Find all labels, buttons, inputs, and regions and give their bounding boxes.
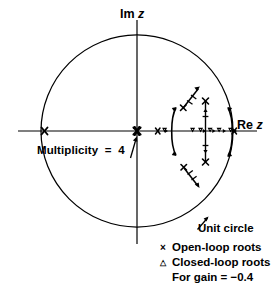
real-axis-label: Re z [237, 119, 263, 132]
legend-label-closed-loop-roots: Closed-loop roots [172, 255, 270, 270]
x-marker-icon: × [160, 240, 172, 255]
imaginary-axis-label: Im z [120, 8, 144, 21]
legend-item-open-loop-roots: × Open-loop roots [160, 240, 278, 255]
real-axis-label-variable: z [256, 118, 262, 132]
triangle-marker-icon: △ [160, 255, 172, 270]
legend-gain-value: For gain = −0.4 [160, 270, 278, 285]
real-axis-label-prefix: Re [237, 118, 256, 132]
legend-label-open-loop-roots: Open-loop roots [172, 240, 261, 255]
lower-diagonal-branch [181, 165, 200, 189]
legend-item-closed-loop-roots: △ Closed-loop roots [160, 255, 278, 270]
upper-diagonal-branch [181, 87, 201, 111]
unit-circle-annotation: Unit circle [198, 222, 254, 234]
imaginary-axis-label-prefix: Im [120, 7, 138, 21]
multiplicity-leader-arrow [131, 137, 138, 159]
imaginary-axis-label-variable: z [138, 7, 144, 21]
root-locus-figure: Im z Re z Multiplicity = 4 Unit circle ×… [0, 0, 279, 293]
multiplicity-annotation: Multiplicity = 4 [37, 144, 125, 156]
legend: × Open-loop roots △ Closed-loop roots Fo… [160, 240, 278, 285]
